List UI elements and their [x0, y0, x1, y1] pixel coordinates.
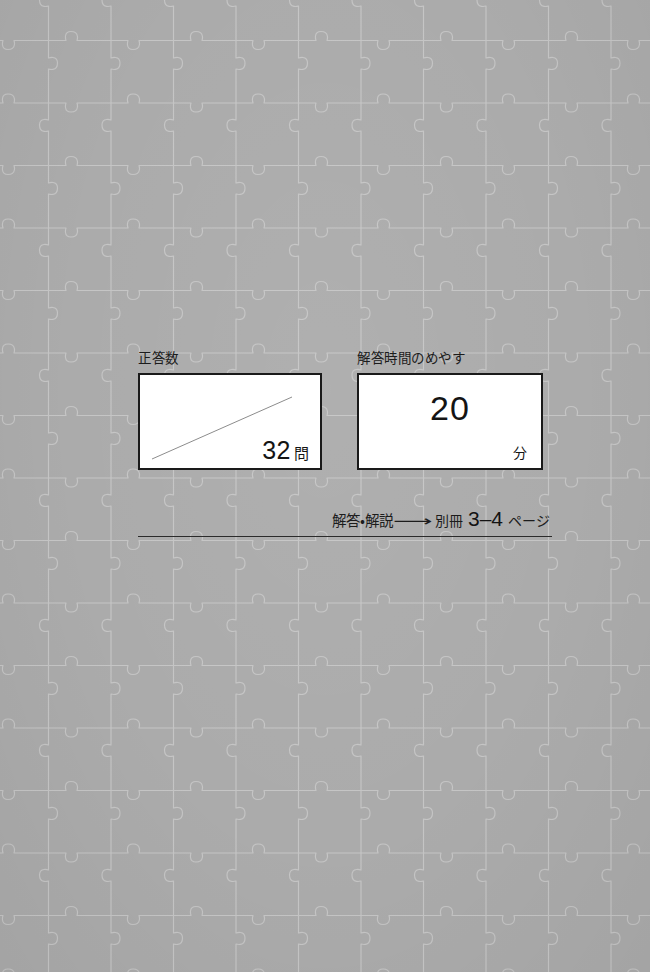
time-field-label: 解答時間のめやす — [357, 352, 543, 366]
score-unit: 問 — [294, 446, 309, 461]
score-value-group: 32 問 — [262, 438, 309, 463]
time-unit: 分 — [513, 446, 527, 460]
long-arrow-right-icon: ⟶ — [393, 514, 431, 529]
answer-reference-pages: 3–4 — [468, 508, 503, 529]
score-field-label: 正答数 — [138, 352, 322, 366]
score-value: 32 — [262, 438, 291, 463]
answer-reference-page-suffix: ページ — [508, 514, 550, 528]
worksheet-content: 正答数 32 問 解答時間のめやす 20 分 解答・解説 — [0, 0, 650, 972]
answer-reference: 解答・解説 ⟶ 別冊 3–4 ページ — [138, 508, 552, 537]
time-value-box: 20 分 — [357, 373, 543, 470]
score-input-box[interactable]: 32 問 — [138, 373, 322, 470]
score-field-group: 正答数 32 問 — [138, 352, 322, 470]
worksheet-page: 正答数 32 問 解答時間のめやす 20 分 解答・解説 — [0, 0, 650, 972]
time-value: 20 — [359, 391, 541, 425]
answer-reference-booklet: 別冊 — [435, 514, 463, 528]
answer-reference-divider — [138, 536, 552, 537]
time-field-group: 解答時間のめやす 20 分 — [357, 352, 543, 470]
answer-reference-text: 解答・解説 ⟶ 別冊 3–4 ページ — [138, 508, 552, 529]
answer-reference-prefix: 解答・解説 — [332, 514, 393, 529]
